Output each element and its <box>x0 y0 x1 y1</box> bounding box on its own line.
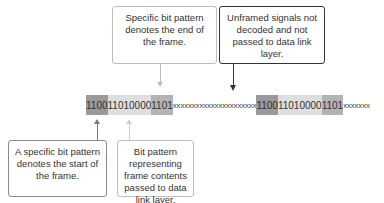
callout-frame-contents-text: Bit pattern representing frame contents … <box>119 146 193 203</box>
frame1-end-flag: 1101 <box>151 95 173 115</box>
callout-start-of-frame: A specific bit pattern denotes the start… <box>8 140 107 197</box>
end-of-frame-connector <box>160 64 161 82</box>
callout-frame-contents: Bit pattern representing frame contents … <box>117 140 194 197</box>
callout-end-of-frame-text: Specific bit pattern denotes the end of … <box>119 12 211 48</box>
callout-end-of-frame: Specific bit pattern denotes the end of … <box>112 6 217 64</box>
frame1-contents: 11010000 <box>108 95 152 115</box>
arrow-down-icon <box>230 85 236 91</box>
start-of-frame-connector <box>97 124 98 140</box>
unframed-connector <box>233 64 234 85</box>
unframed-tail: xxxxxxx <box>343 95 370 115</box>
callout-start-of-frame-text: A specific bit pattern denotes the start… <box>12 146 104 182</box>
frame2-contents: 11010000 <box>278 95 322 115</box>
frame2-start-flag: 1100 <box>256 95 278 115</box>
unframed-gap: xxxxxxxxxxxxxxxxxxxxxx <box>173 95 257 115</box>
arrow-down-icon <box>157 82 163 87</box>
frame2-end-flag: 1101 <box>322 95 344 115</box>
bit-stream: 1100 11010000 1101 xxxxxxxxxxxxxxxxxxxxx… <box>86 95 370 115</box>
contents-connector <box>129 124 130 140</box>
callout-unframed-signals-text: Unframed signals not decoded and not pas… <box>226 12 318 60</box>
frame1-start-flag: 1100 <box>86 95 108 115</box>
callout-unframed-signals: Unframed signals not decoded and not pas… <box>219 6 325 64</box>
